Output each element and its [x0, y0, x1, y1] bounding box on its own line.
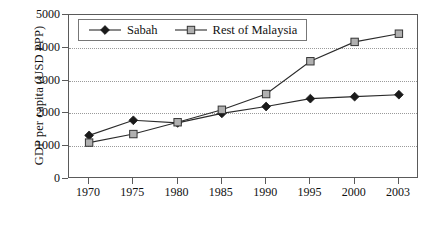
marker-rest-of-malaysia-1975	[130, 130, 137, 137]
x-tick-label-2003: 2003	[368, 186, 428, 198]
legend-label-sabah: Sabah	[127, 24, 158, 37]
y-tick-label-5000: 5000	[6, 8, 60, 20]
marker-sabah-1995	[306, 94, 315, 103]
y-tick-label-0: 0	[6, 172, 60, 184]
y-tick-label-4000: 4000	[6, 41, 60, 53]
marker-rest-of-malaysia-1970	[85, 139, 92, 146]
filled-diamond-marker	[88, 24, 122, 36]
marker-rest-of-malaysia-1980	[174, 119, 181, 126]
marker-sabah-1990	[262, 102, 271, 111]
y-tick-mark-0	[62, 178, 68, 179]
series-line-rest-of-malaysia	[89, 34, 399, 143]
chart-legend: SabahRest of Malaysia	[78, 19, 307, 41]
marker-sabah-1975	[129, 116, 138, 125]
y-tick-label-2000: 2000	[6, 106, 60, 118]
marker-rest-of-malaysia-2000	[351, 38, 358, 45]
marker-rest-of-malaysia-1985	[218, 106, 225, 113]
marker-sabah-2000	[350, 92, 359, 101]
marker-sabah-2003	[394, 90, 403, 99]
gdp-per-capita-line-chart: GDP per capita (USD PPP) 010002000300040…	[0, 0, 432, 245]
open-square-marker	[174, 24, 208, 36]
y-axis-title: GDP per capita (USD PPP)	[32, 1, 47, 191]
legend-label-rest-of-malaysia: Rest of Malaysia	[213, 24, 298, 37]
legend-entry-sabah[interactable]: Sabah	[88, 24, 158, 37]
series-line-sabah	[89, 95, 399, 136]
marker-rest-of-malaysia-1995	[307, 58, 314, 65]
y-tick-label-1000: 1000	[6, 139, 60, 151]
legend-entry-rest-of-malaysia[interactable]: Rest of Malaysia	[174, 24, 298, 37]
marker-rest-of-malaysia-1990	[262, 90, 269, 97]
marker-rest-of-malaysia-2003	[395, 30, 402, 37]
y-tick-label-3000: 3000	[6, 74, 60, 86]
